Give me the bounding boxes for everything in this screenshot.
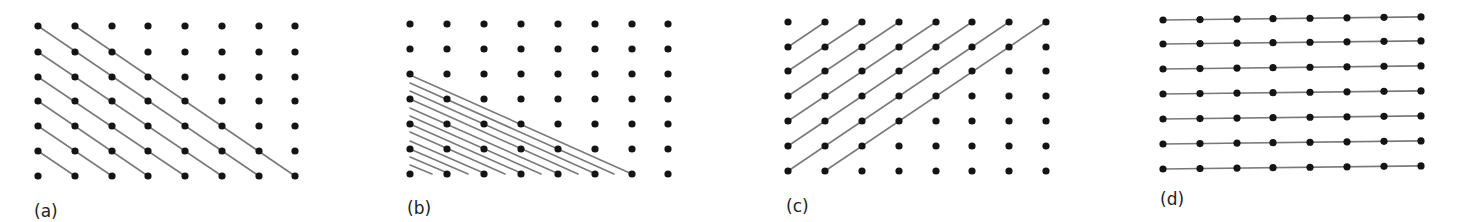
lattice-dot — [291, 122, 298, 129]
lattice-dot — [628, 120, 635, 127]
lattice-dot — [406, 120, 413, 127]
lattice-dot — [406, 170, 413, 177]
connecting-line — [38, 151, 75, 176]
lattice-dot — [554, 145, 561, 152]
lattice-dot — [218, 122, 225, 129]
lattice-dot — [968, 92, 975, 99]
lattice-dot — [1269, 89, 1276, 96]
lattice-dot — [1196, 16, 1203, 23]
lattice-dot — [1159, 65, 1166, 72]
lattice-dot — [1233, 40, 1240, 47]
lattice-dot — [664, 95, 671, 102]
lattice-dot — [554, 20, 561, 27]
lattice-dot — [255, 147, 262, 154]
panel-c-dot-grid — [784, 18, 1049, 174]
lattice-dot — [1042, 43, 1049, 50]
lattice-dot — [628, 95, 635, 102]
lattice-dot — [406, 145, 413, 152]
lattice-dot — [255, 73, 262, 80]
lattice-dot — [1196, 65, 1203, 72]
lattice-dot — [1306, 139, 1313, 146]
connecting-line — [410, 99, 578, 174]
lattice-dot — [628, 45, 635, 52]
lattice-dot — [34, 97, 41, 104]
lattice-dot — [34, 48, 41, 55]
connecting-line — [788, 22, 899, 96]
lattice-dot — [858, 117, 865, 124]
lattice-dot — [144, 73, 151, 80]
lattice-dot — [71, 73, 78, 80]
lattice-dot — [517, 20, 524, 27]
lattice-dot — [1005, 92, 1012, 99]
lattice-dot — [1306, 64, 1313, 71]
lattice-dot — [181, 48, 188, 55]
lattice-dot — [932, 117, 939, 124]
lattice-dot — [108, 122, 115, 129]
lattice-dot — [218, 172, 225, 179]
lattice-dot — [1343, 14, 1350, 21]
lattice-dot — [480, 20, 487, 27]
lattice-dot — [443, 45, 450, 52]
lattice-dot — [932, 92, 939, 99]
lattice-dot — [108, 73, 115, 80]
lattice-dot — [664, 70, 671, 77]
lattice-dot — [821, 67, 828, 74]
lattice-dot — [628, 145, 635, 152]
lattice-dot — [1042, 167, 1049, 174]
panel-b-label: (b) — [407, 198, 431, 218]
lattice-dot — [108, 48, 115, 55]
lattice-dot — [932, 43, 939, 50]
lattice-dot — [1343, 38, 1350, 45]
lattice-dot — [218, 48, 225, 55]
lattice-dot — [406, 20, 413, 27]
lattice-dot — [255, 172, 262, 179]
lattice-dot — [218, 22, 225, 29]
lattice-lines-figure: (a) (b) (c) (d) — [0, 0, 1460, 222]
lattice-dot — [291, 147, 298, 154]
lattice-dot — [480, 120, 487, 127]
lattice-dot — [784, 117, 791, 124]
lattice-dot — [443, 170, 450, 177]
lattice-dot — [1005, 167, 1012, 174]
lattice-dot — [591, 70, 598, 77]
lattice-dot — [1306, 39, 1313, 46]
lattice-dot — [591, 145, 598, 152]
lattice-dot — [108, 172, 115, 179]
lattice-dot — [517, 95, 524, 102]
lattice-dot — [1269, 114, 1276, 121]
lattice-dot — [181, 97, 188, 104]
lattice-dot — [517, 70, 524, 77]
lattice-dot — [1159, 90, 1166, 97]
lattice-dot — [144, 97, 151, 104]
lattice-dot — [1269, 39, 1276, 46]
connecting-line — [38, 101, 148, 176]
lattice-dot — [628, 170, 635, 177]
lattice-dot — [895, 67, 902, 74]
lattice-dot — [591, 170, 598, 177]
lattice-dot — [1159, 115, 1166, 122]
connecting-line — [788, 22, 972, 146]
lattice-dot — [1380, 113, 1387, 120]
lattice-dot — [144, 122, 151, 129]
lattice-dot — [1380, 14, 1387, 21]
lattice-dot — [181, 73, 188, 80]
lattice-dot — [821, 92, 828, 99]
lattice-dot — [1196, 115, 1203, 122]
lattice-dot — [858, 43, 865, 50]
lattice-dot — [517, 45, 524, 52]
lattice-dot — [443, 95, 450, 102]
lattice-dot — [1380, 63, 1387, 70]
lattice-dot — [591, 120, 598, 127]
panel-b-dot-grid — [406, 20, 671, 177]
lattice-dot — [784, 142, 791, 149]
lattice-dot — [34, 172, 41, 179]
lattice-dot — [218, 147, 225, 154]
lattice-dot — [218, 97, 225, 104]
lattice-dot — [1042, 117, 1049, 124]
lattice-dot — [1306, 164, 1313, 171]
lattice-dot — [1343, 113, 1350, 120]
lattice-dot — [1343, 63, 1350, 70]
lattice-dot — [71, 97, 78, 104]
lattice-dot — [1159, 140, 1166, 147]
lattice-dot — [1233, 165, 1240, 172]
